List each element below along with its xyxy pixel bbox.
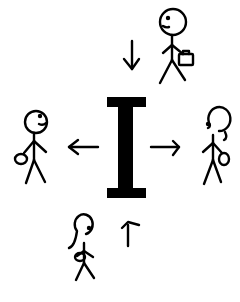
illustration-svg	[0, 0, 240, 302]
arrow-down-icon	[124, 41, 139, 69]
arrow-right-icon	[151, 141, 179, 155]
arrow-left-icon	[69, 140, 98, 154]
illustration-canvas: I	[0, 0, 240, 302]
stick-figure-left-icon	[15, 111, 47, 183]
arrow-up-icon	[122, 222, 139, 246]
stick-figure-bottom-icon	[69, 214, 94, 280]
stick-figure-briefcase-icon	[160, 9, 193, 83]
letter-i-icon	[107, 97, 146, 198]
stick-figure-right-icon	[203, 107, 230, 184]
